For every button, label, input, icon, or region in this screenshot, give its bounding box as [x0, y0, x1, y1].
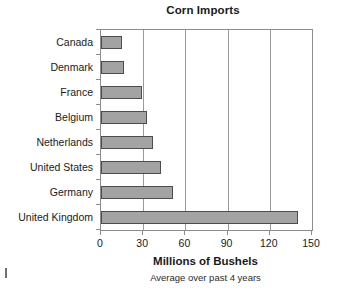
bar-row	[101, 130, 153, 155]
chart-title: Corn Imports	[95, 4, 311, 16]
bar[interactable]	[101, 136, 153, 149]
scan-artifact-mark	[5, 268, 7, 278]
chart-subtitle: Average over past 4 years	[100, 272, 311, 283]
y-axis-label-united-kingdom: United Kingdom	[0, 211, 93, 223]
x-axis-tick-label-0: 0	[80, 237, 120, 249]
x-axis-tick-120	[269, 230, 270, 235]
bar-row	[101, 30, 122, 55]
bar-row	[101, 80, 142, 105]
corn-imports-bar-chart: Corn Imports CanadaDenmarkFranceBelgiumN…	[0, 0, 343, 302]
x-axis-tick-label-90: 90	[207, 237, 247, 249]
x-axis-tick-labels: 0306090120150	[0, 237, 343, 251]
x-axis-title: Millions of Bushels	[100, 255, 311, 267]
x-axis-tick-90	[227, 230, 228, 235]
x-axis-tick-60	[184, 230, 185, 235]
bar-row	[101, 205, 298, 230]
x-axis-tick-0	[100, 230, 101, 235]
y-axis-label-france: France	[0, 86, 93, 98]
y-axis-label-denmark: Denmark	[0, 61, 93, 73]
bar[interactable]	[101, 211, 298, 224]
bar[interactable]	[101, 161, 161, 174]
bar-row	[101, 105, 147, 130]
bar-row	[101, 180, 173, 205]
y-axis-label-netherlands: Netherlands	[0, 136, 93, 148]
y-axis-category-labels: CanadaDenmarkFranceBelgiumNetherlandsUni…	[0, 29, 93, 229]
y-axis-label-canada: Canada	[0, 36, 93, 48]
bar[interactable]	[101, 36, 122, 49]
x-axis-tick-label-120: 120	[249, 237, 289, 249]
x-axis-tick-label-150: 150	[291, 237, 331, 249]
y-axis-label-belgium: Belgium	[0, 111, 93, 123]
x-axis-tick-30	[142, 230, 143, 235]
bar[interactable]	[101, 186, 173, 199]
bar[interactable]	[101, 86, 142, 99]
plot-area	[100, 29, 313, 231]
y-axis-label-germany: Germany	[0, 186, 93, 198]
bar-row	[101, 155, 161, 180]
y-axis-label-united-states: United States	[0, 161, 93, 173]
bar[interactable]	[101, 111, 147, 124]
x-axis-ticks	[100, 230, 312, 235]
x-axis-tick-label-60: 60	[164, 237, 204, 249]
bar-series	[101, 30, 312, 230]
bar-row	[101, 55, 124, 80]
x-axis-tick-label-30: 30	[122, 237, 162, 249]
x-axis-tick-150	[311, 230, 312, 235]
bar[interactable]	[101, 61, 124, 74]
